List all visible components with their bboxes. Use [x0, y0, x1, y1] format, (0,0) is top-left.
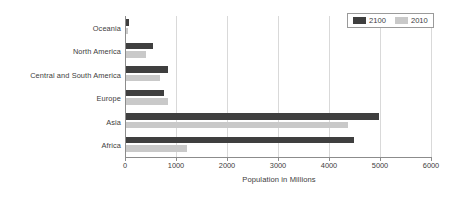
x-axis-title-text: Population in Millions [242, 175, 316, 184]
bar-row: Africa [0, 134, 462, 158]
category-label: Europe [97, 94, 121, 103]
chart-legend: 2100 2010 [347, 13, 434, 28]
bar-2100 [126, 113, 379, 120]
x-axis-tick-labels: 0100020003000400050006000 [0, 161, 462, 173]
bar-group [126, 134, 432, 158]
bar-2010 [126, 28, 128, 35]
tick-label-2000: 2000 [219, 161, 235, 170]
bar-group [126, 40, 432, 64]
dark-swatch-icon [353, 17, 366, 24]
legend-item-2010: 2010 [395, 16, 428, 25]
legend-label-2010: 2010 [411, 16, 428, 25]
category-label: Asia [106, 117, 121, 126]
category-label: Oceania [93, 23, 121, 32]
bar-2010 [126, 98, 168, 105]
bar-2010 [126, 51, 146, 58]
bar-rows: OceaniaNorth AmericaCentral and South Am… [0, 16, 462, 157]
tick-label-3000: 3000 [270, 161, 286, 170]
legend-label-2100: 2100 [369, 16, 386, 25]
bar-group [126, 87, 432, 111]
bar-group [126, 63, 432, 87]
bar-2100 [126, 137, 354, 144]
tick-label-1000: 1000 [168, 161, 184, 170]
legend-item-2100: 2100 [353, 16, 386, 25]
bar-2010 [126, 122, 348, 129]
bar-row: Asia [0, 110, 462, 134]
tick-label-5000: 5000 [372, 161, 388, 170]
tick-label-0: 0 [123, 161, 127, 170]
bar-row: Central and South America [0, 63, 462, 87]
tick-label-4000: 4000 [321, 161, 337, 170]
light-swatch-icon [395, 17, 408, 24]
bar-2100 [126, 43, 153, 50]
bar-2010 [126, 145, 187, 152]
x-axis-title: Population in Millions [0, 175, 462, 184]
category-label: Africa [102, 141, 122, 150]
bar-chart: OceaniaNorth AmericaCentral and South Am… [0, 0, 462, 197]
bar-group [126, 110, 432, 134]
bar-2100 [126, 90, 164, 97]
bar-2100 [126, 66, 168, 73]
category-label: Central and South America [30, 70, 121, 79]
bar-2100 [126, 19, 129, 26]
tick-label-6000: 6000 [423, 161, 439, 170]
bar-row: North America [0, 40, 462, 64]
bar-2010 [126, 75, 160, 82]
category-label: North America [73, 47, 121, 56]
bar-row: Europe [0, 87, 462, 111]
